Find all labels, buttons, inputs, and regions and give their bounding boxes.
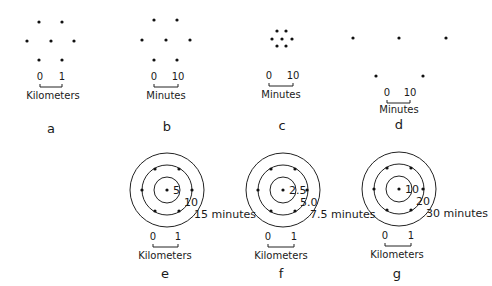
scale-end-label: 1 bbox=[291, 231, 297, 242]
scale-bar: 010Minutes bbox=[261, 70, 300, 100]
ring-point bbox=[372, 187, 375, 190]
panel-d: 010Minutesd bbox=[351, 36, 447, 132]
point bbox=[188, 38, 191, 41]
panel-f: 2.55.07.5 minutes01Kilometersf bbox=[246, 153, 376, 281]
ring-point bbox=[409, 166, 412, 169]
scale-end-label: 10 bbox=[287, 70, 300, 81]
point bbox=[140, 38, 143, 41]
scale-end-label: 1 bbox=[59, 71, 65, 82]
ring-point bbox=[190, 188, 193, 191]
point bbox=[270, 37, 273, 40]
center-point bbox=[397, 187, 400, 190]
point bbox=[164, 38, 167, 41]
panel-g: 102030 minutes01Kilometersg bbox=[362, 152, 488, 281]
scale-bracket bbox=[40, 84, 62, 87]
ring-label: 15 minutes bbox=[194, 208, 256, 221]
ring-point bbox=[177, 209, 180, 212]
point bbox=[444, 36, 447, 39]
point bbox=[72, 39, 75, 42]
scale-start-label: 0 bbox=[266, 70, 272, 81]
point bbox=[397, 36, 400, 39]
point bbox=[284, 44, 287, 47]
point bbox=[374, 74, 377, 77]
scale-bar: 01Kilometers bbox=[254, 231, 308, 261]
scale-bar: 010Minutes bbox=[379, 87, 418, 115]
center-point bbox=[165, 188, 168, 191]
panel-label: f bbox=[279, 266, 284, 281]
scale-bracket bbox=[154, 84, 178, 87]
scale-unit-label: Minutes bbox=[379, 104, 418, 115]
ring-point bbox=[385, 208, 388, 211]
scale-start-label: 0 bbox=[37, 71, 43, 82]
scale-end-label: 1 bbox=[175, 231, 181, 242]
point bbox=[152, 58, 155, 61]
ring-point bbox=[293, 167, 296, 170]
ring-point bbox=[177, 167, 180, 170]
scale-bracket bbox=[153, 244, 178, 247]
scale-unit-label: Minutes bbox=[261, 89, 300, 100]
point bbox=[175, 58, 178, 61]
figure-canvas: 01Kilometersa010Minutesb010Minutesc010Mi… bbox=[0, 0, 492, 286]
ring-point bbox=[421, 187, 424, 190]
point bbox=[284, 29, 287, 32]
ring-point bbox=[409, 208, 412, 211]
scale-unit-label: Minutes bbox=[146, 90, 185, 101]
panel-b: 010Minutesb bbox=[140, 18, 191, 134]
point bbox=[49, 39, 52, 42]
panel-e: 51015 minutes01Kilometerse bbox=[130, 153, 256, 281]
ring-point bbox=[153, 209, 156, 212]
scale-start-label: 0 bbox=[384, 87, 390, 98]
scale-bracket bbox=[387, 100, 410, 103]
panel-label: a bbox=[47, 121, 55, 136]
scale-end-label: 10 bbox=[404, 87, 417, 98]
scale-bar: 01Kilometers bbox=[370, 230, 424, 260]
scale-start-label: 0 bbox=[265, 231, 271, 242]
ring-label: 30 minutes bbox=[426, 207, 488, 220]
scale-bar: 01Kilometers bbox=[138, 231, 192, 261]
panel-label: c bbox=[278, 118, 285, 133]
scale-start-label: 0 bbox=[382, 230, 388, 241]
scale-unit-label: Kilometers bbox=[370, 249, 424, 260]
point bbox=[275, 44, 278, 47]
ring-point bbox=[256, 188, 259, 191]
point bbox=[37, 20, 40, 23]
point bbox=[175, 18, 178, 21]
panel-a: 01Kilometersa bbox=[25, 20, 79, 136]
ring-point bbox=[269, 167, 272, 170]
point bbox=[280, 37, 283, 40]
scale-unit-label: Kilometers bbox=[138, 250, 192, 261]
ring-point bbox=[385, 166, 388, 169]
scale-bar: 01Kilometers bbox=[26, 71, 80, 101]
point bbox=[351, 36, 354, 39]
point bbox=[275, 29, 278, 32]
point bbox=[290, 37, 293, 40]
scale-bracket bbox=[385, 243, 411, 246]
panel-c: 010Minutesc bbox=[261, 29, 300, 133]
ring-point bbox=[269, 209, 272, 212]
scale-unit-label: Kilometers bbox=[26, 90, 80, 101]
ring-point bbox=[293, 209, 296, 212]
ring-point bbox=[153, 167, 156, 170]
ring-label: 7.5 minutes bbox=[310, 208, 376, 221]
scale-bracket bbox=[268, 244, 294, 247]
scale-bracket bbox=[269, 83, 293, 86]
point bbox=[421, 74, 424, 77]
point bbox=[152, 18, 155, 21]
point bbox=[25, 39, 28, 42]
point bbox=[37, 58, 40, 61]
panel-label: g bbox=[393, 266, 401, 281]
scale-end-label: 10 bbox=[172, 71, 185, 82]
scale-bar: 010Minutes bbox=[146, 71, 185, 101]
scale-start-label: 0 bbox=[151, 71, 157, 82]
scale-end-label: 1 bbox=[408, 230, 414, 241]
panels-group: 01Kilometersa010Minutesb010Minutesc010Mi… bbox=[25, 18, 488, 281]
ring-label: 5 bbox=[173, 184, 180, 197]
ring-point bbox=[140, 188, 143, 191]
panel-label: e bbox=[161, 266, 169, 281]
panel-label: d bbox=[395, 117, 403, 132]
panel-label: b bbox=[163, 119, 171, 134]
center-point bbox=[281, 188, 284, 191]
point bbox=[60, 20, 63, 23]
scale-start-label: 0 bbox=[150, 231, 156, 242]
scale-unit-label: Kilometers bbox=[254, 250, 308, 261]
